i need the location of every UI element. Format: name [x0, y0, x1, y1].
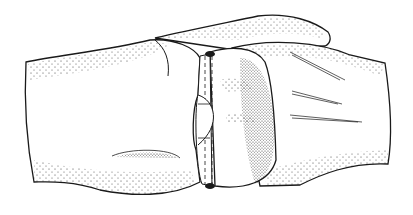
stippled-drawing [0, 0, 413, 215]
left-segment [25, 40, 200, 195]
bottom-node [205, 183, 215, 189]
joint-band [196, 51, 215, 189]
central-knob [210, 48, 276, 187]
illustration: Stippled line illustration of two joined… [0, 0, 413, 215]
top-node [205, 51, 215, 57]
